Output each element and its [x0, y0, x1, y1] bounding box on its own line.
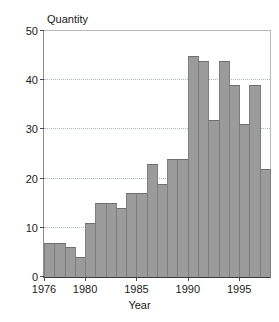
bar — [260, 169, 271, 277]
x-axis-title: Year — [0, 299, 279, 311]
x-tick-label: 1976 — [32, 283, 56, 295]
plot-area: 01020304050 19761980198519901995 — [43, 30, 271, 278]
y-tick-mark — [40, 30, 44, 31]
y-tick-label: 40 — [6, 74, 38, 86]
x-tick-label: 1985 — [124, 283, 148, 295]
x-tick-label: 1990 — [176, 283, 200, 295]
bar-series — [44, 31, 270, 277]
x-tick-mark — [85, 277, 86, 281]
y-tick-label: 0 — [6, 271, 38, 283]
x-tick-mark — [239, 277, 240, 281]
y-tick-label: 50 — [6, 25, 38, 37]
x-tick-mark — [188, 277, 189, 281]
x-tick-mark — [44, 277, 45, 281]
x-tick-mark — [136, 277, 137, 281]
x-tick-label: 1995 — [227, 283, 251, 295]
y-tick-mark — [40, 178, 44, 179]
y-tick-mark — [40, 79, 44, 80]
y-tick-label: 20 — [6, 173, 38, 185]
y-tick-label: 30 — [6, 123, 38, 135]
y-tick-mark — [40, 227, 44, 228]
y-axis-title: Quantity — [47, 13, 88, 25]
bar-chart-figure: Quantity 01020304050 1976198019851990199… — [0, 0, 279, 322]
x-tick-label: 1980 — [73, 283, 97, 295]
y-tick-label: 10 — [6, 222, 38, 234]
y-tick-mark — [40, 128, 44, 129]
